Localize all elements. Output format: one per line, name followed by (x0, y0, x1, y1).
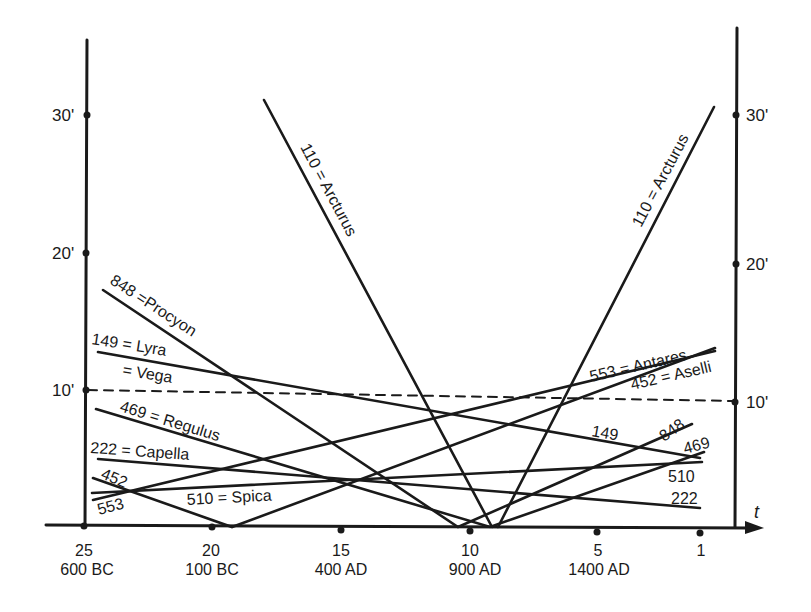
x-era-20: 100 BC (185, 561, 238, 578)
right-y-axis (735, 28, 737, 527)
tick-x-20 (209, 524, 216, 531)
y-label-right-30: 30' (746, 106, 768, 125)
tick-left-10 (83, 387, 90, 394)
x-era-10: 900 AD (449, 561, 501, 578)
x-label-1: 1 (697, 542, 706, 559)
label-510-spica: 510 = Spica (186, 487, 272, 508)
x-era-5: 1400 AD (568, 561, 629, 578)
label-848-procyon: 848 =Procyon (107, 271, 199, 339)
label-510-right: 510 (668, 468, 695, 485)
label-469-right: 469 (681, 434, 711, 457)
y-label-left-10: 10' (52, 381, 74, 400)
label-149-lyra: 149 = Lyra (91, 330, 168, 359)
tick-left-20 (83, 250, 90, 257)
y-label-right-10: 10' (746, 393, 768, 412)
tick-right-10 (732, 399, 739, 406)
x-label-15: 15 (332, 542, 350, 559)
tick-x-1 (697, 530, 704, 537)
tick-x-10 (467, 528, 474, 535)
x-axis-arrow-icon (745, 521, 764, 534)
x-label-5: 5 (594, 542, 603, 559)
y-label-left-20: 20' (52, 244, 74, 263)
x-label-25: 25 (75, 542, 93, 559)
x-axis (46, 525, 750, 528)
x-era-15: 400 AD (315, 561, 367, 578)
label-110-arcturus-2: 110 = Arcturus (629, 131, 692, 229)
x-label-10: 10 (461, 542, 479, 559)
y-label-left-30: 30' (52, 106, 74, 125)
tick-right-20 (733, 261, 740, 268)
tick-right-30 (733, 112, 740, 119)
x-axis-title-t: t (754, 502, 760, 522)
label-222-right: 222 (671, 490, 698, 507)
x-label-20: 20 (202, 542, 220, 559)
star-error-chart: 30' 20' 10' 30' 20' 10' 25 600 BC 20 100… (0, 0, 811, 612)
tick-left-30 (84, 112, 91, 119)
tick-x-5 (594, 529, 601, 536)
label-452-left: 452 (99, 465, 130, 491)
y-label-right-20: 20' (746, 255, 768, 274)
tick-x-15 (338, 527, 345, 534)
tick-x-25 (81, 523, 88, 530)
x-era-25: 600 BC (60, 561, 113, 578)
series-110-arcturus-descending (264, 100, 492, 527)
